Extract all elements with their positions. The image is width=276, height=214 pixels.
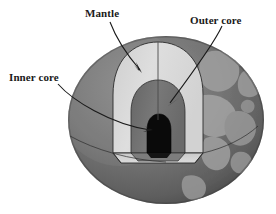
earth-cutaway-figure: Mantle Outer core Inner core — [0, 0, 276, 214]
earth-diagram-svg — [0, 0, 276, 214]
label-inner-core: Inner core — [9, 71, 59, 83]
label-outer-core: Outer core — [190, 14, 242, 26]
layer-inner-core — [147, 114, 171, 158]
label-mantle: Mantle — [85, 7, 119, 19]
